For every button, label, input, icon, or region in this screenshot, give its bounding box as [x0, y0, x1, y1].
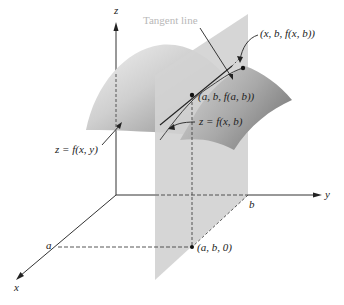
tangent-line-label: Tangent line [143, 14, 198, 26]
point-ab-label: (a, b, f(a, b)) [198, 90, 254, 102]
y-axis-label: y [325, 188, 330, 200]
point-xb [241, 66, 245, 70]
trace-curve-label: z = f(x, b) [199, 115, 242, 127]
z-axis-label: z [114, 4, 118, 16]
x-axis-label: x [14, 281, 19, 293]
y-tick-b: b [249, 198, 255, 210]
surface-label: z = f(x, y) [55, 143, 98, 155]
x-axis [16, 195, 116, 280]
diagram-canvas: z Tangent line (x, b, f(x, b)) (a, b, f(… [0, 0, 344, 305]
base-point-label: (a, b, 0) [197, 241, 232, 253]
x-tick-a: a [46, 239, 52, 251]
point-ab0 [190, 245, 194, 249]
point-xb-label: (x, b, f(x, b)) [260, 27, 315, 39]
point-ab [190, 93, 194, 97]
